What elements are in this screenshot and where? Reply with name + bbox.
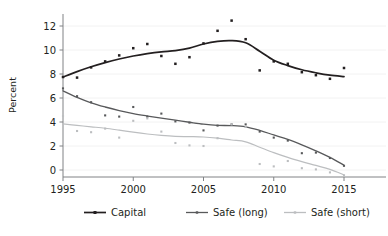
data-point <box>343 165 345 167</box>
y-tick-label: 12 <box>43 21 56 32</box>
data-point <box>146 116 148 118</box>
legend-swatch-marker <box>196 211 198 213</box>
y-tick-label: 2 <box>50 141 56 152</box>
y-axis-title-text: Percent <box>7 77 18 113</box>
data-point <box>273 60 276 63</box>
gridlines <box>63 26 386 170</box>
data-point <box>343 174 345 176</box>
data-point <box>174 142 176 144</box>
x-tick-label: 1995 <box>50 184 75 195</box>
chart-figure: 024681012 19952000200520102015 Percent C… <box>0 0 388 236</box>
data-point <box>315 74 318 77</box>
data-point <box>231 123 233 125</box>
data-point <box>287 160 289 162</box>
data-point <box>329 78 332 81</box>
data-point <box>273 165 275 167</box>
data-point <box>287 140 289 142</box>
data-point <box>174 63 177 66</box>
data-point <box>118 54 121 57</box>
data-point <box>329 157 331 159</box>
data-point <box>188 144 190 146</box>
data-point <box>216 30 219 33</box>
data-point <box>245 123 247 125</box>
data-point <box>301 167 303 169</box>
y-axis-title: Percent <box>7 77 18 113</box>
chart-legend: CapitalSafe (long)Safe (short) <box>84 207 370 218</box>
data-point <box>118 137 120 139</box>
data-point <box>160 55 163 58</box>
data-point <box>146 117 148 119</box>
y-tick-label: 4 <box>50 117 56 128</box>
x-tick-label: 2010 <box>261 184 286 195</box>
data-point <box>62 87 64 89</box>
y-tick-label: 0 <box>50 165 56 176</box>
data-point <box>160 131 162 133</box>
data-point <box>315 152 317 154</box>
data-point <box>160 113 162 115</box>
data-point <box>301 71 304 74</box>
data-point <box>118 116 120 118</box>
data-point <box>188 56 191 59</box>
data-point <box>146 43 149 46</box>
data-point <box>132 106 134 108</box>
data-point <box>76 76 79 79</box>
data-point <box>259 131 261 133</box>
data-point <box>273 137 275 139</box>
data-point <box>217 137 219 139</box>
data-point <box>188 122 190 124</box>
y-tick-label: 10 <box>43 45 56 56</box>
data-point <box>202 129 204 131</box>
x-tick-label: 2005 <box>191 184 216 195</box>
data-point <box>202 145 204 147</box>
data-point <box>62 76 65 79</box>
data-point <box>287 63 290 66</box>
data-point <box>245 126 247 128</box>
y-axis-ticks: 024681012 <box>43 21 63 176</box>
data-point <box>76 95 78 97</box>
axes <box>63 14 386 177</box>
data-point <box>301 152 303 154</box>
data-point <box>62 115 64 117</box>
data-point <box>76 130 78 132</box>
x-tick-label: 2015 <box>331 184 356 195</box>
data-point <box>230 19 233 22</box>
data-point <box>315 168 317 170</box>
legend-label: Safe (short) <box>311 207 370 218</box>
y-tick-label: 6 <box>50 93 56 104</box>
data-point <box>343 67 346 70</box>
data-point <box>104 128 106 130</box>
data-point <box>174 120 176 122</box>
data-point <box>329 171 331 173</box>
data-point <box>90 66 93 69</box>
x-axis-ticks: 19952000200520102015 <box>50 177 356 195</box>
data-point <box>132 47 135 50</box>
legend-swatch-marker <box>294 211 296 213</box>
y-tick-label: 8 <box>50 69 56 80</box>
data-point <box>90 101 92 103</box>
x-tick-label: 2000 <box>121 184 146 195</box>
data-point <box>217 125 219 127</box>
data-point <box>90 131 92 133</box>
legend-swatch-marker <box>94 211 97 214</box>
data-point <box>202 42 205 45</box>
legend-label: Capital <box>111 207 146 218</box>
line-chart: 024681012 19952000200520102015 Percent C… <box>0 0 388 236</box>
legend-label: Safe (long) <box>213 207 268 218</box>
data-point <box>259 163 261 165</box>
data-point <box>104 114 106 116</box>
data-point <box>132 120 134 122</box>
data-point <box>104 60 107 63</box>
data-point <box>258 69 261 72</box>
data-point <box>244 38 247 41</box>
